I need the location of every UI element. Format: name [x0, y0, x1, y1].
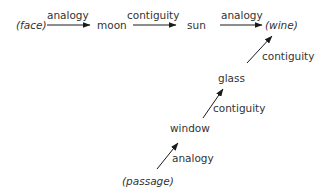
- node-moon: moon: [97, 19, 127, 31]
- node-passage: (passage): [122, 175, 174, 187]
- edge-label-passage-window: analogy: [172, 152, 214, 164]
- edge-label-sun-wine: analogy: [221, 9, 263, 21]
- edge-label-face-moon: analogy: [47, 9, 89, 21]
- node-glass: glass: [218, 72, 245, 84]
- node-face: (face): [16, 19, 47, 31]
- node-window: window: [170, 122, 210, 134]
- edge-label-moon-sun: contiguity: [127, 9, 179, 21]
- node-sun: sun: [187, 19, 206, 31]
- edge-label-glass-wine: contiguity: [262, 50, 314, 62]
- edge-label-window-glass: contiguity: [213, 102, 265, 114]
- metaphor-metonymy-diagram: (face) moon sun (wine) glass window (pas…: [0, 0, 318, 194]
- node-wine: (wine): [265, 19, 298, 31]
